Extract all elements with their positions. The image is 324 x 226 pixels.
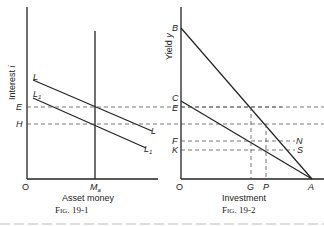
xlabel-1: Asset money xyxy=(62,193,115,203)
label-K: K xyxy=(172,145,179,155)
origin-O: O xyxy=(22,182,29,192)
label-S: S xyxy=(297,145,303,155)
ylabel-2: Yield y xyxy=(164,33,174,60)
line-BA xyxy=(181,28,312,179)
line-CA xyxy=(181,101,312,179)
label-G: G xyxy=(247,182,254,192)
label-P: P xyxy=(263,182,269,192)
label-Ma: Ma xyxy=(90,182,102,193)
origin-O2: O xyxy=(176,182,183,192)
label-E2: E xyxy=(172,103,179,113)
label-L-end: L xyxy=(151,126,156,136)
label-B: B xyxy=(172,23,178,33)
label-E: E xyxy=(16,102,23,112)
curve-L1 xyxy=(33,98,146,148)
label-L1-end: L1 xyxy=(144,144,152,155)
caption-1: FIG. 19-1 xyxy=(55,205,88,215)
label-L: L xyxy=(33,72,38,82)
label-A: A xyxy=(307,182,314,192)
label-L1: L1 xyxy=(33,89,41,100)
diagram-canvas: Interest i L L1 E H L L1 O Ma Asset mone… xyxy=(0,0,324,226)
xlabel-2: Investment xyxy=(222,193,267,203)
ylabel-1: Interest i xyxy=(7,64,17,100)
caption-2: FIG. 19-2 xyxy=(222,205,255,215)
label-C: C xyxy=(172,93,179,103)
label-H: H xyxy=(16,119,23,129)
